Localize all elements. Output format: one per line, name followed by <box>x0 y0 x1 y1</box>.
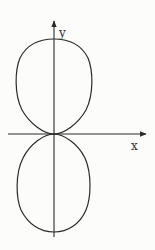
y-axis-label: y <box>58 26 66 40</box>
polar-curve-figure: y x <box>0 0 155 250</box>
figure-canvas: y x <box>0 0 155 250</box>
x-axis-label: x <box>131 139 138 153</box>
